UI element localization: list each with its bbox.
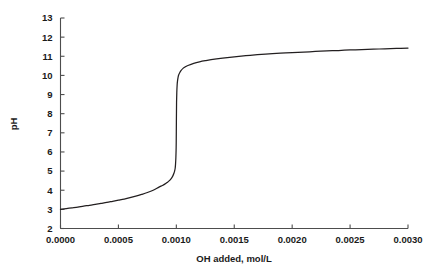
- x-tick-label: 0.0000: [46, 234, 75, 245]
- x-axis-title: OH added, mol/L: [196, 253, 272, 264]
- y-tick-label: 13: [42, 12, 53, 23]
- x-tick-label: 0.0010: [162, 234, 191, 245]
- y-tick-label: 12: [42, 32, 53, 43]
- x-tick-label: 0.0030: [393, 234, 422, 245]
- y-tick-label: 6: [47, 146, 52, 157]
- x-tick-label: 0.0020: [278, 234, 307, 245]
- chart-figure: 2345678910111213 0.00000.00050.00100.001…: [0, 0, 439, 272]
- x-tick-label: 0.0015: [220, 234, 250, 245]
- y-tick-label: 2: [47, 223, 52, 234]
- y-tick-label: 5: [47, 165, 53, 176]
- y-tick-label: 3: [47, 204, 52, 215]
- y-axis-title: pH: [8, 118, 19, 131]
- y-tick-label: 8: [47, 108, 52, 119]
- y-tick-label: 11: [42, 51, 53, 62]
- y-tick-label: 10: [42, 70, 53, 81]
- y-tick-label: 9: [47, 89, 52, 100]
- x-tick-label: 0.0025: [336, 234, 366, 245]
- y-tick-label: 4: [47, 185, 53, 196]
- titration-curve-plot: 2345678910111213 0.00000.00050.00100.001…: [0, 0, 439, 272]
- y-tick-label: 7: [47, 127, 52, 138]
- chart-background: [0, 0, 439, 272]
- x-tick-label: 0.0005: [104, 234, 134, 245]
